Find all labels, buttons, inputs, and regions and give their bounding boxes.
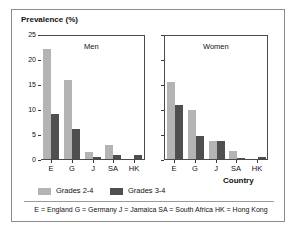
x-tick-men-j <box>93 160 94 163</box>
x-tick-women-sa <box>236 160 237 163</box>
y-tick-right-0 <box>161 160 164 161</box>
x-tick-men-e <box>51 160 52 163</box>
legend-swatch-grades-2-4 <box>38 188 51 195</box>
x-tick-label-women-hk: HK <box>245 164 269 173</box>
legend-label-grades-3-4: Grades 3-4 <box>128 186 166 195</box>
bar-women-j-s1 <box>209 141 217 159</box>
x-tick-women-j <box>216 160 217 163</box>
panel-men <box>41 35 145 160</box>
x-tick-women-e <box>174 160 175 163</box>
y-tick-label-0: 0 <box>20 156 36 163</box>
bar-men-j-s1 <box>85 152 93 159</box>
legend-label-grades-2-4: Grades 2-4 <box>56 186 94 195</box>
bar-women-j-s2 <box>217 141 225 159</box>
panel-title-men: Men <box>84 42 99 51</box>
y-tick-label-5: 5 <box>20 131 36 138</box>
bar-men-e-s1 <box>43 49 51 159</box>
bar-men-sa-s2 <box>113 155 121 159</box>
bar-women-g-s1 <box>188 110 196 159</box>
y-tick-label-20: 20 <box>20 56 36 63</box>
y-tick-0 <box>38 160 41 161</box>
panel-women <box>164 35 268 160</box>
x-tick-label-men-hk: HK <box>122 164 146 173</box>
x-tick-men-sa <box>113 160 114 163</box>
x-axis-label: Country <box>223 176 254 185</box>
bar-men-sa-s1 <box>105 145 113 159</box>
bar-women-e-s1 <box>167 82 175 159</box>
y-tick-label-25: 25 <box>20 31 36 38</box>
panel-title-women: Women <box>203 42 229 51</box>
footnote-abbreviations: E = England G = Germany J = Jamaica SA =… <box>26 206 276 213</box>
bar-women-g-s2 <box>196 136 204 159</box>
x-tick-men-hk <box>134 160 135 163</box>
y-tick-label-10: 10 <box>20 106 36 113</box>
bar-men-e-s2 <box>51 114 59 159</box>
bar-women-sa-s2 <box>237 158 245 159</box>
legend-divider <box>24 201 274 202</box>
bar-men-j-s2 <box>93 157 101 159</box>
figure-frame: Prevalence (%) 25 20 15 10 5 0 Men Women… <box>11 9 285 222</box>
x-tick-women-g <box>195 160 196 163</box>
legend-swatch-grades-3-4 <box>110 188 123 195</box>
bar-men-hk-s2 <box>134 155 142 159</box>
bar-men-g-s2 <box>72 129 80 159</box>
x-tick-men-g <box>72 160 73 163</box>
bar-women-sa-s1 <box>229 151 237 159</box>
y-tick-label-15: 15 <box>20 81 36 88</box>
bar-women-hk-s2 <box>258 157 266 159</box>
x-tick-women-hk <box>257 160 258 163</box>
bar-men-g-s1 <box>64 80 72 159</box>
legend: Grades 2-4 Grades 3-4 <box>38 185 263 198</box>
bar-women-e-s2 <box>175 105 183 159</box>
